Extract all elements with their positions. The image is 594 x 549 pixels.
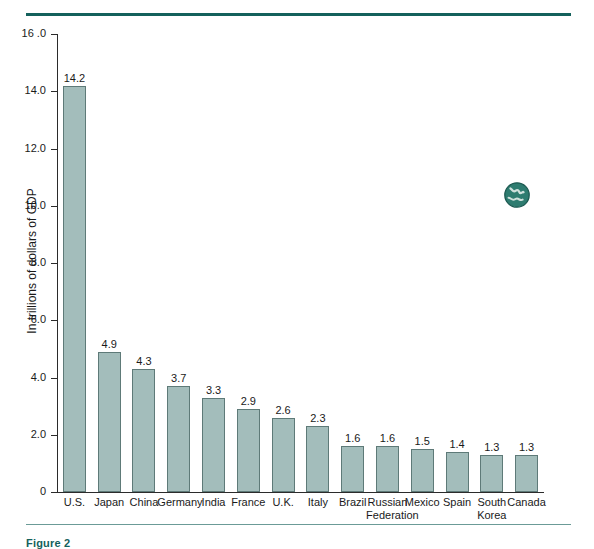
figure-caption: Figure 2: [26, 537, 70, 549]
bar[interactable]: [98, 352, 121, 492]
globe-icon: [502, 180, 532, 210]
bar-column[interactable]: 1.3: [515, 34, 538, 492]
x-axis-line: [57, 492, 544, 493]
bar[interactable]: [480, 455, 503, 492]
bar-column[interactable]: 1.4: [446, 34, 469, 492]
bar[interactable]: [376, 446, 399, 492]
y-tick: [51, 492, 57, 493]
bottom-rule: [26, 524, 571, 525]
bar-value-label: 3.7: [155, 372, 202, 384]
bar-column[interactable]: 4.9: [98, 34, 121, 492]
bar-column[interactable]: 1.6: [376, 34, 399, 492]
bar[interactable]: [167, 386, 190, 492]
y-axis-title: In trillions of dollars of GDP: [25, 136, 39, 386]
x-axis-categories: U.S.JapanChinaGermanyIndiaFranceU.K.Ital…: [57, 496, 544, 536]
bar[interactable]: [446, 452, 469, 492]
bar[interactable]: [237, 409, 260, 492]
top-rule: [26, 13, 571, 16]
bar[interactable]: [132, 369, 155, 492]
bar[interactable]: [515, 455, 538, 492]
bar-column[interactable]: 2.3: [306, 34, 329, 492]
x-axis-label: Canada: [505, 496, 548, 509]
bar-column[interactable]: 14.2: [63, 34, 86, 492]
bar-column[interactable]: 1.3: [480, 34, 503, 492]
bar-column[interactable]: 1.5: [411, 34, 434, 492]
bar-column[interactable]: 3.3: [202, 34, 225, 492]
bar-value-label: 2.3: [294, 412, 341, 424]
bar[interactable]: [63, 86, 86, 492]
bar-value-label: 3.3: [190, 384, 237, 396]
bar[interactable]: [202, 398, 225, 492]
bar[interactable]: [272, 418, 295, 492]
bar-value-label: 1.3: [503, 441, 550, 453]
y-tick-label: 0: [4, 485, 46, 497]
bar-column[interactable]: 3.7: [167, 34, 190, 492]
bar-value-label: 4.9: [86, 338, 133, 350]
y-tick-label: 2.0: [4, 428, 46, 440]
y-tick-label: 16 .0: [4, 27, 46, 39]
bar-column[interactable]: 4.3: [132, 34, 155, 492]
bar[interactable]: [411, 449, 434, 492]
bar-series: 14.24.94.33.73.32.92.62.31.61.61.51.41.3…: [57, 34, 544, 492]
bar[interactable]: [341, 446, 364, 492]
bar-column[interactable]: 2.9: [237, 34, 260, 492]
bar-value-label: 14.2: [51, 72, 98, 84]
bar-value-label: 4.3: [120, 355, 167, 367]
bar-column[interactable]: 2.6: [272, 34, 295, 492]
bar-column[interactable]: 1.6: [341, 34, 364, 492]
y-tick-label: 14.0: [4, 84, 46, 96]
bar[interactable]: [306, 426, 329, 492]
bar-chart: 02.04.06.08.010.012.014.016 .0 In trilli…: [0, 22, 594, 522]
